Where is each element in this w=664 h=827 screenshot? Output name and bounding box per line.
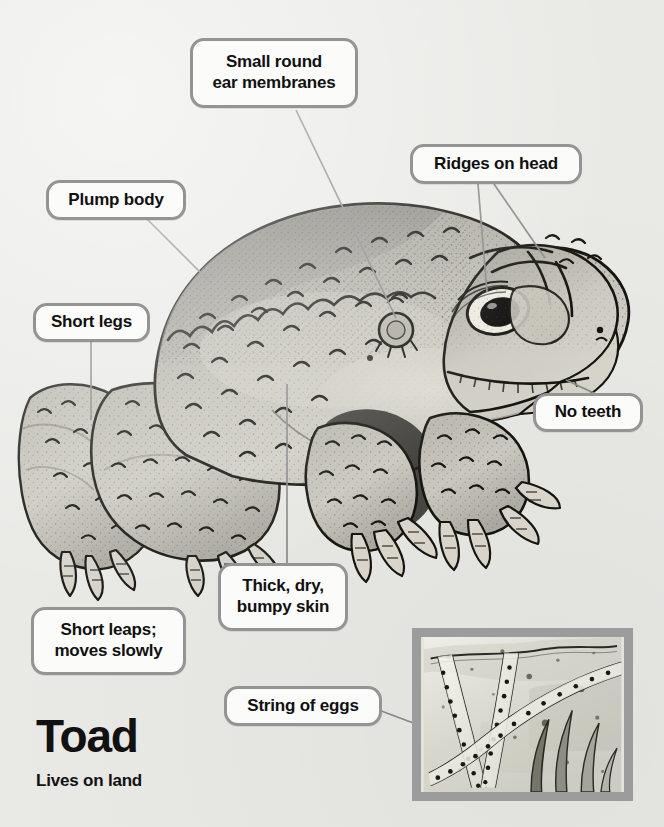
leader-plump-body bbox=[146, 218, 212, 284]
callout-short-leaps: Short leaps; moves slowly bbox=[31, 607, 186, 675]
callout-line: Small round bbox=[226, 52, 322, 71]
callout-line: Plump body bbox=[68, 190, 163, 211]
callout-no-teeth: No teeth bbox=[533, 393, 643, 432]
callout-ridges-on-head: Ridges on head bbox=[410, 144, 582, 184]
title-block: Toad Lives on land bbox=[36, 713, 142, 791]
callout-line: Short leaps; bbox=[61, 620, 157, 639]
callout-line: Short legs bbox=[51, 312, 132, 333]
string-of-eggs-inset bbox=[412, 628, 633, 801]
callout-bumpy-skin: Thick, dry, bumpy skin bbox=[218, 563, 348, 631]
callout-ear-membranes: Small round ear membranes bbox=[190, 38, 358, 108]
callout-line: No teeth bbox=[555, 402, 621, 423]
callout-plump-body: Plump body bbox=[46, 180, 186, 220]
callout-line: String of eggs bbox=[247, 696, 358, 717]
callout-line: moves slowly bbox=[54, 641, 162, 660]
callout-line: ear membranes bbox=[212, 73, 335, 92]
callout-string-of-eggs: String of eggs bbox=[224, 686, 382, 726]
toad-head bbox=[440, 230, 640, 414]
page-title: Toad bbox=[36, 713, 142, 759]
page-subtitle: Lives on land bbox=[36, 771, 142, 791]
callout-line: bumpy skin bbox=[237, 597, 329, 616]
callout-line: Ridges on head bbox=[434, 154, 558, 175]
callout-line: Thick, dry, bbox=[242, 576, 324, 595]
toad-anatomy-diagram: Small round ear membranes Ridges on head… bbox=[0, 0, 664, 827]
callout-short-legs: Short legs bbox=[33, 303, 150, 342]
